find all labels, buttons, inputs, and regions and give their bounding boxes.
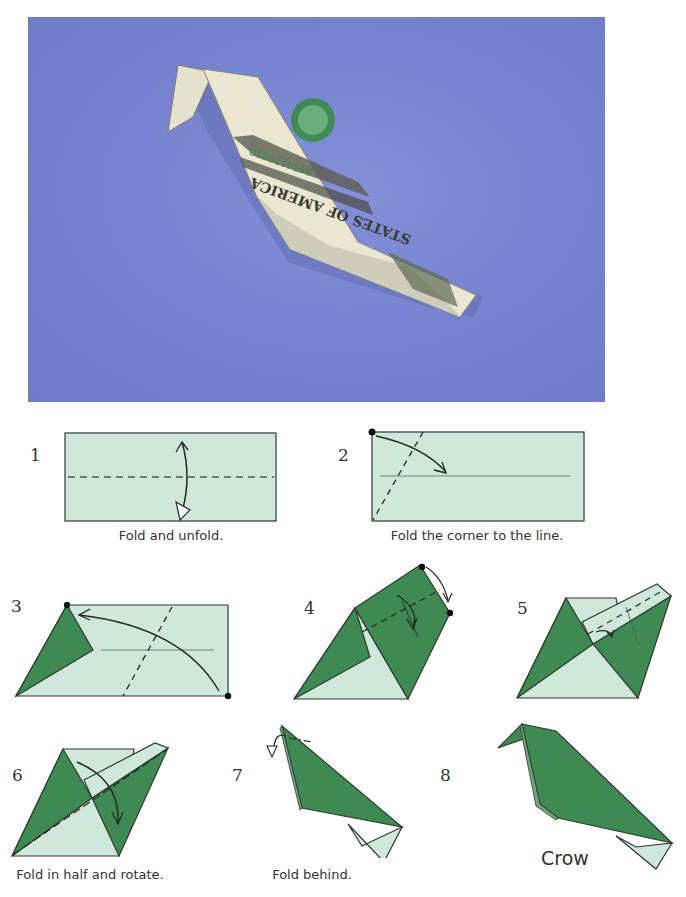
step-1-caption: Fold and unfold. xyxy=(64,528,278,543)
step-2-number: 2 xyxy=(338,445,349,465)
step-7-number: 7 xyxy=(232,765,243,785)
step-1-number: 1 xyxy=(30,445,41,465)
step-3-diagram xyxy=(12,602,236,700)
final-model-label: Crow xyxy=(541,847,589,869)
step-7-caption: Fold behind. xyxy=(232,867,392,882)
corner-dot xyxy=(369,429,376,436)
step-1-diagram xyxy=(64,432,278,522)
step-5-diagram xyxy=(514,582,686,700)
step-6-caption: Fold in half and rotate. xyxy=(0,867,180,882)
step-7-diagram xyxy=(262,724,404,858)
step-2-caption: Fold the corner to the line. xyxy=(368,528,586,543)
step-8-number: 8 xyxy=(440,765,451,785)
step-6-diagram xyxy=(10,742,172,860)
folded-bill-crow-image: A45411991B STATES OF AMERICA xyxy=(28,17,605,402)
step-2-diagram xyxy=(368,428,586,524)
step-4-diagram xyxy=(290,555,460,700)
crow-photo: A45411991B STATES OF AMERICA xyxy=(28,17,605,402)
